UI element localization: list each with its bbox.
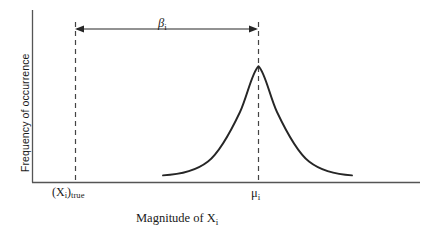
bias-label: βi (158, 17, 167, 32)
true-value-label: (Xi)true (52, 186, 85, 200)
y-axis-title: Frequency of occurrence (20, 54, 31, 172)
true-value-label-sub-true: true (71, 190, 84, 200)
bias-arrowhead-left (75, 26, 84, 33)
true-value-label-open: (X (52, 185, 65, 199)
gaussian-curve (163, 66, 352, 175)
mean-label: μi (251, 187, 260, 202)
bias-arrowhead-right (249, 26, 258, 33)
bias-label-subscript: i (164, 22, 167, 32)
distribution-plot (0, 0, 429, 247)
figure-container: Frequency of occurrence Magnitude of Xi … (0, 0, 429, 247)
x-axis-title-subscript: i (216, 217, 219, 227)
mean-label-subscript: i (258, 192, 261, 202)
x-axis-title: Magnitude of Xi (136, 212, 218, 227)
mean-label-symbol: μ (251, 186, 258, 200)
x-axis-title-text: Magnitude of X (136, 211, 216, 225)
